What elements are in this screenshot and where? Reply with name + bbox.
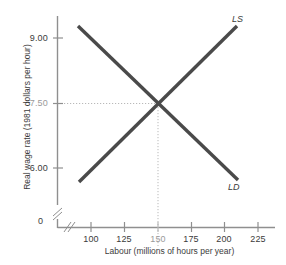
x-tick-label-125: 125 [110, 234, 138, 244]
x-tick-label-100: 100 [77, 234, 105, 244]
origin-label: 0 [38, 216, 43, 226]
y-axis-break-mark-1 [53, 208, 62, 216]
labour-market-chart: 9.00 7.50 6.00 0 100 125 150 175 200 225… [0, 0, 286, 265]
y-axis-break-mark-2 [53, 212, 62, 220]
x-tick-label-150: 150 [144, 234, 172, 244]
x-axis-title: Labour (millions of hours per year) [57, 246, 282, 256]
labour-supply-curve-label: LS [232, 14, 243, 24]
labour-demand-curve-label: LD [228, 182, 240, 192]
x-tick-label-225: 225 [244, 234, 272, 244]
y-axis-title: Real wage rate (1981 dollars per hour) [22, 37, 32, 197]
x-tick-label-200: 200 [210, 234, 238, 244]
x-tick-label-175: 175 [177, 234, 205, 244]
